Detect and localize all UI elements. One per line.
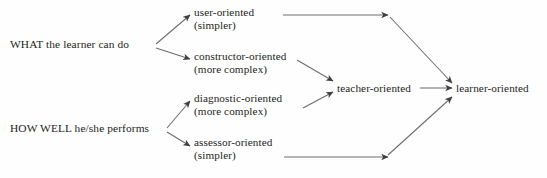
node-label: assessor-oriented xyxy=(194,136,273,148)
node-label: user-oriented xyxy=(194,6,254,18)
node-what-the-learner-can-do: WHAT the learner can do xyxy=(10,38,129,51)
node-how-well-he-she-performs: HOW WELL he/she performs xyxy=(10,122,149,135)
node-label: HOW WELL he/she performs xyxy=(10,122,149,134)
node-user-oriented: user-oriented (simpler) xyxy=(194,6,254,31)
node-label: WHAT the learner can do xyxy=(10,38,129,50)
node-label: learner-oriented xyxy=(456,82,529,94)
edge-diagnostic-to-teacher xyxy=(303,92,333,108)
node-constructor-oriented: constructor-oriented (more complex) xyxy=(194,50,286,75)
diagram-canvas: WHAT the learner can do HOW WELL he/she … xyxy=(0,0,547,178)
edge-user-branch-to-learner xyxy=(390,17,452,83)
edge-assessor-branch-to-learner xyxy=(388,97,452,155)
edge-constructor-to-teacher xyxy=(297,60,333,81)
node-teacher-oriented: teacher-oriented xyxy=(337,82,411,95)
node-diagnostic-oriented: diagnostic-oriented (more complex) xyxy=(194,92,282,117)
edge-what-to-user xyxy=(156,15,190,44)
node-label: diagnostic-oriented xyxy=(194,92,282,104)
node-assessor-oriented: assessor-oriented (simpler) xyxy=(194,136,273,161)
node-learner-oriented: learner-oriented xyxy=(456,82,529,95)
node-label: constructor-oriented xyxy=(194,50,286,62)
edge-howwell-to-diagnostic xyxy=(167,101,190,128)
node-sublabel: (simpler) xyxy=(194,149,273,162)
edge-howwell-to-assessor xyxy=(167,132,190,146)
node-sublabel: (more complex) xyxy=(194,105,282,118)
node-sublabel: (simpler) xyxy=(194,19,254,32)
node-label: teacher-oriented xyxy=(337,82,411,94)
node-sublabel: (more complex) xyxy=(194,63,286,76)
edge-what-to-constructor xyxy=(156,48,190,59)
